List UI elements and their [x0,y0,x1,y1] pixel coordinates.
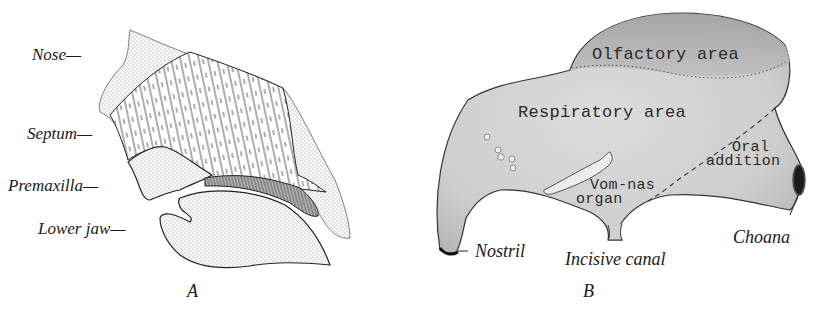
region-vom-nas-line2: organ [576,192,623,207]
label-septum: Septum— [27,125,92,142]
region-oral-addition-line2: addition [706,154,780,169]
label-lower-jaw: Lower jaw— [38,220,125,237]
caption-b: B [583,282,594,300]
incisive-canal-shape [608,224,622,240]
label-nose: Nose— [32,46,81,63]
region-olfactory-area: Olfactory area [592,46,739,63]
choana-opening [793,165,805,195]
region-respiratory-area: Respiratory area [518,104,686,121]
panel-a: Nose— Septum— Premaxilla— Lower jaw— A [0,0,400,317]
label-incisive-canal: Incisive canal [565,250,665,268]
label-premaxilla: Premaxilla— [8,177,98,194]
label-choana: Choana [733,228,790,246]
label-nostril: Nostril [475,242,525,260]
panel-b: Olfactory area Respiratory area Oral add… [400,0,815,317]
caption-a: A [187,282,198,300]
